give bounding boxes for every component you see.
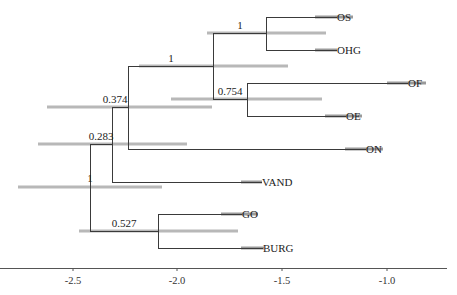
taxon-label-burg: BURG: [263, 242, 294, 254]
support-labels: 10.2830.374110.7540.527: [87, 19, 243, 229]
x-axis-tick-label: -2.0: [169, 275, 186, 286]
support-label-n_1_oshg: 1: [237, 19, 243, 31]
x-axis-tick-label: -2.5: [65, 275, 82, 286]
support-label-root: 1: [87, 172, 93, 184]
x-axis: -2.5-2.0-1.5-1.0: [0, 268, 447, 286]
taxon-label-ohg: OHG: [337, 44, 361, 56]
support-label-n_1_big: 1: [168, 52, 174, 64]
x-axis-tick-label: -1.5: [274, 275, 291, 286]
taxon-label-of: OF: [408, 77, 422, 89]
taxon-label-os: OS: [337, 11, 351, 23]
taxon-label-oe: OE: [346, 110, 361, 122]
taxon-label-vand: VAND: [262, 176, 292, 188]
support-label-n_0754: 0.754: [218, 85, 243, 97]
support-label-n_0527: 0.527: [112, 217, 137, 229]
support-label-n_0374: 0.374: [103, 93, 128, 105]
phylogenetic-tree: 10.2830.374110.7540.527 OSOHGOFOEONVANDG…: [0, 0, 457, 295]
support-label-n_0283: 0.283: [89, 130, 114, 142]
x-axis-tick-label: -1.0: [379, 275, 396, 286]
taxon-labels: OSOHGOFOEONVANDGOBURG: [242, 11, 422, 254]
taxon-label-on: ON: [366, 143, 382, 155]
taxon-label-go: GO: [242, 208, 258, 220]
